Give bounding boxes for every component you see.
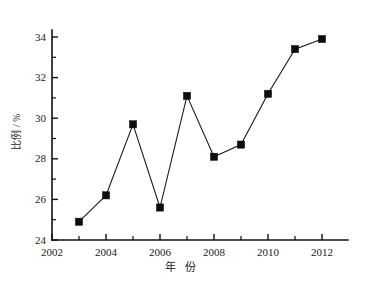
chart-svg [0,0,367,287]
data-point-2006 [156,204,163,211]
y-tick-label-32: 32 [20,72,46,83]
x-axis-title: 年 份 [127,261,237,273]
data-point-2011 [291,46,298,53]
data-point-2005 [129,121,136,128]
data-point-2010 [264,90,271,97]
x-tick-label-2008: 2008 [194,247,234,258]
data-point-2012 [318,35,325,42]
y-tick-label-30: 30 [20,113,46,124]
y-tick-label-28: 28 [20,153,46,164]
y-axis-title: 比例 / % [11,102,22,162]
y-tick-label-34: 34 [20,32,46,43]
plot-area: 24 26 28 30 32 34 2002 2004 2006 2008 20… [0,0,367,287]
data-point-2003 [75,218,82,225]
x-tick-label-2012: 2012 [302,247,342,258]
data-point-2007 [183,92,190,99]
x-tick-label-2006: 2006 [140,247,180,258]
x-tick-label-2002: 2002 [32,247,72,258]
chart-container: 24 26 28 30 32 34 2002 2004 2006 2008 20… [0,0,367,287]
data-point-2008 [210,153,217,160]
y-tick-label-24: 24 [20,235,46,246]
data-point-2009 [237,141,244,148]
x-tick-label-2010: 2010 [248,247,288,258]
data-markers [75,35,325,225]
y-tick-label-26: 26 [20,194,46,205]
data-point-2004 [102,192,109,199]
data-line [79,39,322,222]
x-tick-label-2004: 2004 [86,247,126,258]
